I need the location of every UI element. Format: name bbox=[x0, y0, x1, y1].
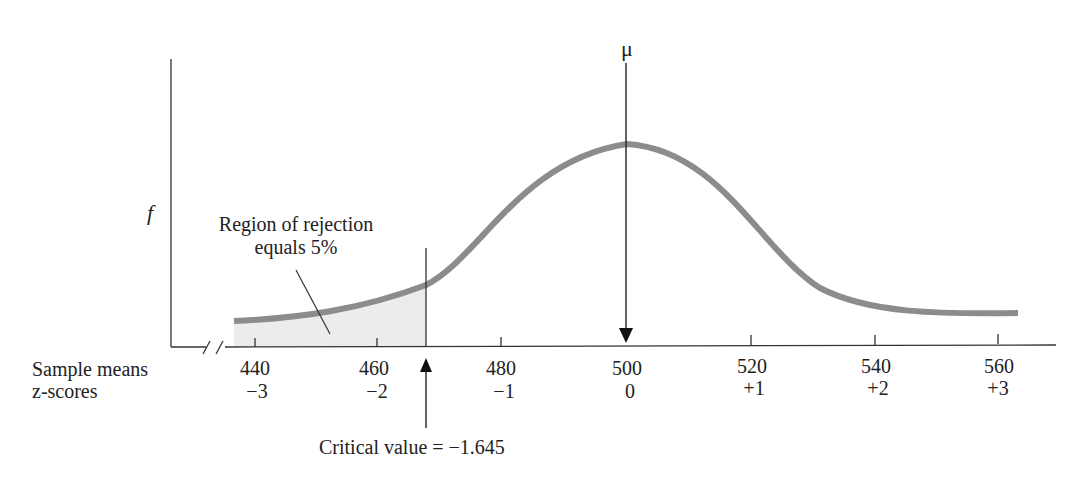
normal-distribution-chart bbox=[0, 0, 1087, 477]
tick-mean-540: 540 bbox=[861, 355, 891, 377]
axis-break-mark bbox=[216, 341, 223, 354]
mean-label: μ bbox=[621, 38, 633, 60]
tick-z-+3: +3 bbox=[987, 377, 1008, 399]
region-label-line2: equals 5% bbox=[255, 236, 338, 258]
tick-mean-500: 500 bbox=[612, 357, 642, 379]
tick-z-+1: +1 bbox=[743, 377, 764, 399]
tick-z--3: −3 bbox=[246, 380, 267, 402]
tick-z-+2: +2 bbox=[867, 377, 888, 399]
tick-mean-560: 560 bbox=[984, 355, 1014, 377]
tick-z-0: 0 bbox=[625, 380, 635, 402]
tick-mean-460: 460 bbox=[359, 357, 389, 379]
region-label-line1: Region of rejection bbox=[219, 213, 373, 235]
tick-z--1: −1 bbox=[493, 380, 514, 402]
tick-z--2: −2 bbox=[366, 380, 387, 402]
critical-arrow-head-icon bbox=[420, 358, 432, 372]
tick-mean-440: 440 bbox=[240, 357, 270, 379]
tick-mean-480: 480 bbox=[486, 357, 516, 379]
row-label-sample-means: Sample means bbox=[32, 358, 148, 380]
row-label-z-scores: z-scores bbox=[32, 380, 98, 402]
critical-value-label: Critical value = −1.645 bbox=[319, 436, 505, 458]
mean-arrow-head-icon bbox=[619, 328, 633, 343]
y-axis-label: f bbox=[147, 202, 153, 224]
tick-mean-520: 520 bbox=[737, 355, 767, 377]
